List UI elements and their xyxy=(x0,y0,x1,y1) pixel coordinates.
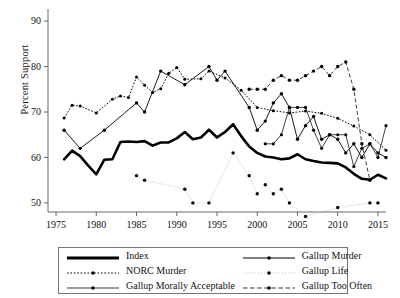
data-point xyxy=(223,69,226,72)
data-point xyxy=(272,109,275,112)
data-point xyxy=(352,142,355,145)
data-point xyxy=(264,183,267,186)
data-point xyxy=(384,124,387,127)
data-point xyxy=(328,133,331,136)
data-point xyxy=(360,156,363,159)
data-point xyxy=(272,142,275,145)
data-point xyxy=(352,125,355,128)
data-point xyxy=(207,70,210,73)
data-point xyxy=(247,174,250,177)
data-point xyxy=(320,65,323,68)
data-point xyxy=(312,69,315,72)
data-point xyxy=(272,101,275,104)
legend: IndexGallup MurderNORC MurderGallup Life… xyxy=(58,247,348,294)
data-point xyxy=(352,165,355,168)
light-dotted-line-marker-icon xyxy=(241,265,297,277)
legend-item-gallup-morally-acceptable[interactable]: Gallup Morally Acceptable xyxy=(59,280,235,292)
data-point xyxy=(344,60,347,63)
data-point xyxy=(368,178,371,181)
data-point xyxy=(256,192,259,195)
data-point xyxy=(344,151,347,154)
data-point xyxy=(376,151,379,154)
data-point xyxy=(135,174,138,177)
x-tick-label-1985: 1985 xyxy=(127,219,147,230)
data-point xyxy=(304,124,307,127)
data-point xyxy=(207,201,210,204)
data-point xyxy=(296,138,299,141)
x-tick-label-1990: 1990 xyxy=(167,219,187,230)
data-point xyxy=(304,74,307,77)
legend-item-label: Gallup Murder xyxy=(297,250,362,261)
legend-item-label: NORC Murder xyxy=(121,265,186,276)
y-tick-label-60: 60 xyxy=(31,152,41,163)
data-point xyxy=(368,142,371,145)
data-point xyxy=(240,89,243,92)
data-point xyxy=(336,133,339,136)
x-tick-label-2000: 2000 xyxy=(247,219,267,230)
thin-solid-line-marker-icon xyxy=(65,280,121,292)
chart-root: Percent Support 506070809019751980198519… xyxy=(0,0,400,298)
data-point xyxy=(256,106,259,109)
legend-item-gallup-murder[interactable]: Gallup Murder xyxy=(235,250,372,262)
legend-item-norc-murder[interactable]: NORC Murder xyxy=(59,265,235,277)
data-point xyxy=(103,128,106,131)
series-index xyxy=(64,124,386,179)
axis-layer: 5060708090197519801985199019952000200520… xyxy=(31,9,388,230)
data-point xyxy=(199,77,202,80)
fine-dotted-line-marker-icon xyxy=(65,265,121,277)
data-point xyxy=(79,105,82,108)
data-point xyxy=(224,76,227,79)
thick-solid-line-icon xyxy=(65,250,121,262)
legend-item-label: Gallup Life xyxy=(297,265,348,276)
x-tick-label-1980: 1980 xyxy=(86,219,106,230)
data-point xyxy=(127,96,130,99)
data-point xyxy=(376,156,379,159)
y-tick-label-70: 70 xyxy=(31,106,41,117)
y-tick-label-50: 50 xyxy=(31,197,41,208)
data-point xyxy=(111,98,114,101)
data-point xyxy=(264,119,267,122)
data-point xyxy=(312,115,315,118)
data-point xyxy=(385,149,388,152)
data-point xyxy=(288,106,291,109)
data-point xyxy=(191,201,194,204)
legend-item-index[interactable]: Index xyxy=(59,250,235,262)
data-point xyxy=(78,147,81,150)
data-point xyxy=(320,147,323,150)
data-point xyxy=(368,133,371,136)
data-point xyxy=(280,188,283,191)
data-point xyxy=(159,69,162,72)
legend-item-label: Gallup Too Often xyxy=(297,280,372,291)
data-point xyxy=(135,76,138,79)
x-tick-label-1975: 1975 xyxy=(46,219,66,230)
data-point xyxy=(304,106,307,109)
data-point xyxy=(296,78,299,81)
data-point xyxy=(384,156,387,159)
legend-item-gallup-life[interactable]: Gallup Life xyxy=(235,265,372,277)
data-point xyxy=(320,138,323,141)
data-point xyxy=(62,128,65,131)
data-point xyxy=(95,111,98,114)
data-point xyxy=(336,206,339,209)
x-tick-label-2010: 2010 xyxy=(328,219,348,230)
data-point xyxy=(135,101,138,104)
data-point xyxy=(183,188,186,191)
data-point xyxy=(215,78,218,81)
data-point xyxy=(71,104,74,107)
x-tick-label-2015: 2015 xyxy=(368,219,388,230)
series-line xyxy=(64,124,386,179)
solid-line-marker-icon xyxy=(241,250,297,262)
data-point xyxy=(304,215,307,218)
data-point xyxy=(280,133,283,136)
data-point xyxy=(344,133,347,136)
x-tick-label-2005: 2005 xyxy=(287,219,307,230)
data-point xyxy=(159,87,162,90)
data-point xyxy=(264,88,267,91)
data-point xyxy=(143,178,146,181)
series-layer xyxy=(62,60,387,218)
legend-item-gallup-too-often[interactable]: Gallup Too Often xyxy=(235,280,372,292)
data-point xyxy=(207,65,210,68)
data-point xyxy=(167,72,170,75)
data-point xyxy=(360,142,363,145)
data-point xyxy=(336,117,339,120)
